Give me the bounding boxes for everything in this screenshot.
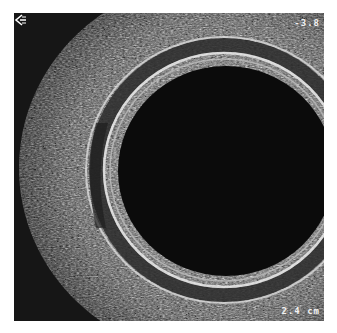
scale-label: 2.4 cm [281,306,320,316]
ultrasound-rendering [14,13,324,321]
ultrasound-image: -3.8 2.4 cm [14,13,324,321]
arrow-left-icon [14,13,28,27]
depth-label: -3.8 [294,18,320,28]
